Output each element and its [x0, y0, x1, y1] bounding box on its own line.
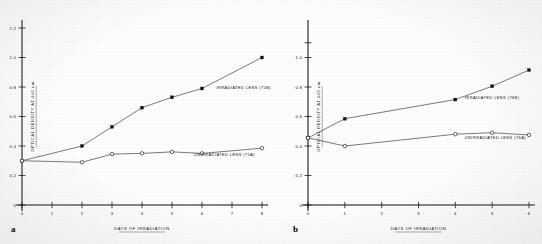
data-point-open-circle	[343, 144, 347, 148]
data-point-filled-square	[81, 145, 84, 148]
x-axis-tick-label: 8	[261, 211, 264, 216]
x-axis-tick-label: 5	[171, 211, 174, 216]
x-axis-tick-label: 5	[491, 211, 494, 216]
data-point-open-circle	[306, 136, 310, 140]
data-point-open-circle	[454, 132, 458, 136]
y-axis-tick-label: 0.6	[10, 114, 17, 119]
series-label: UNIRRADIATED LENS (75A)	[194, 152, 255, 157]
series-label: IRRADIATED LENS (75B)	[217, 85, 272, 90]
panel-letter-b: b	[293, 224, 298, 234]
panel-letter-a: a	[11, 224, 16, 234]
data-point-filled-square	[141, 106, 144, 109]
x-axis-tick-label: 2	[380, 211, 383, 216]
data-point-filled-square	[111, 125, 114, 128]
data-point-open-circle	[490, 131, 494, 135]
x-axis-tick-label: 4	[141, 211, 144, 216]
y-axis-tick-label: 0.8	[296, 85, 303, 90]
data-point-open-circle	[527, 133, 531, 137]
x-axis-tick-label: 7	[231, 211, 234, 216]
x-axis-tick-label: 0	[21, 211, 24, 216]
data-point-filled-square	[491, 85, 494, 88]
data-point-filled-square	[343, 117, 346, 120]
x-axis-tick-label: 1	[51, 211, 54, 216]
chart-panel-a: 00.20.40.60.81.01.2012345678DAYS OF IRRA…	[0, 0, 271, 244]
y-axis-tick-label: 0.2	[296, 173, 303, 178]
x-axis-tick-label: 6	[528, 211, 531, 216]
y-axis-title: OPTICAL DENSITY AT 440 nm	[316, 81, 321, 152]
data-point-open-circle	[20, 159, 24, 163]
plot-area-a: 00.20.40.60.81.01.2012345678DAYS OF IRRA…	[0, 0, 271, 244]
x-axis-tick-label: 4	[454, 211, 457, 216]
y-axis-tick-label: 1.0	[10, 55, 17, 60]
x-axis-title: DAYS OF IRRADIATION	[391, 226, 446, 231]
x-axis-tick-label: 3	[111, 211, 114, 216]
series-label: UNIRRADIATED LENS (76A)	[465, 135, 526, 140]
series-line	[308, 70, 529, 138]
data-point-open-circle	[110, 152, 114, 156]
plot-area-b: 00.20.40.60.81.00123456DAYS OF IRRADIATI…	[271, 0, 542, 244]
data-point-filled-square	[201, 87, 204, 90]
data-point-open-circle	[140, 152, 144, 156]
data-point-filled-square	[528, 69, 531, 72]
y-axis-tick-label: 1.0	[296, 55, 303, 60]
y-axis-title: OPTICAL DENSITY AT 440 nm	[30, 81, 35, 152]
series-label: IRRADIATED LENS (76B)	[465, 95, 520, 100]
y-axis-tick-label: 0.4	[10, 144, 17, 149]
x-axis-tick-label: 3	[417, 211, 420, 216]
y-axis-tick-label: 0.2	[10, 173, 17, 178]
data-point-open-circle	[80, 160, 84, 164]
x-axis-tick-label: 0	[307, 211, 310, 216]
y-axis-tick-label: 0.4	[296, 144, 303, 149]
x-axis-title: DAYS OF IRRADIATION	[114, 226, 169, 231]
x-axis-tick-label: 2	[81, 211, 84, 216]
x-axis-tick-label: 6	[201, 211, 204, 216]
y-axis-tick-label: 0.8	[10, 85, 17, 90]
x-axis-tick-label: 1	[344, 211, 347, 216]
chart-panel-b: 00.20.40.60.81.00123456DAYS OF IRRADIATI…	[271, 0, 542, 244]
data-point-open-circle	[260, 146, 264, 150]
data-point-filled-square	[261, 56, 264, 59]
data-point-filled-square	[171, 96, 174, 99]
data-point-filled-square	[454, 98, 457, 101]
y-axis-tick-label: 1.2	[10, 26, 17, 31]
data-point-open-circle	[170, 150, 174, 154]
y-axis-tick-label: 0.6	[296, 114, 303, 119]
figure-container: 00.20.40.60.81.01.2012345678DAYS OF IRRA…	[0, 0, 542, 244]
